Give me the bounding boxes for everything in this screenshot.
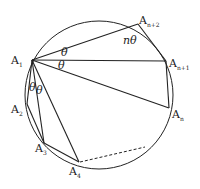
label-an1: An+1 [168,57,190,71]
diagonals-from-a1 [32,24,169,162]
circumcircle [25,21,173,169]
polygon-edges [27,24,169,162]
label-an: An [171,108,184,122]
angle-theta-left1: θ [29,81,36,94]
diag-a1-an1 [32,60,166,61]
angle-theta-left2: θ [36,84,43,97]
label-a4: A4 [68,165,81,179]
angle-n-theta: nθ [123,34,137,47]
edge-an1-an2 [138,24,166,61]
label-a2: A2 [10,103,23,117]
diag-a1-an [32,60,169,108]
angle-theta-top: θ [61,46,68,59]
inscribed-polygon-diagram: A1 A2 A3 A4 An An+1 An+2 θ θ θ θ nθ [0,0,200,189]
label-a1: A1 [10,54,23,68]
label-an2: An+2 [138,14,160,28]
angle-theta-mid: θ [58,59,65,72]
